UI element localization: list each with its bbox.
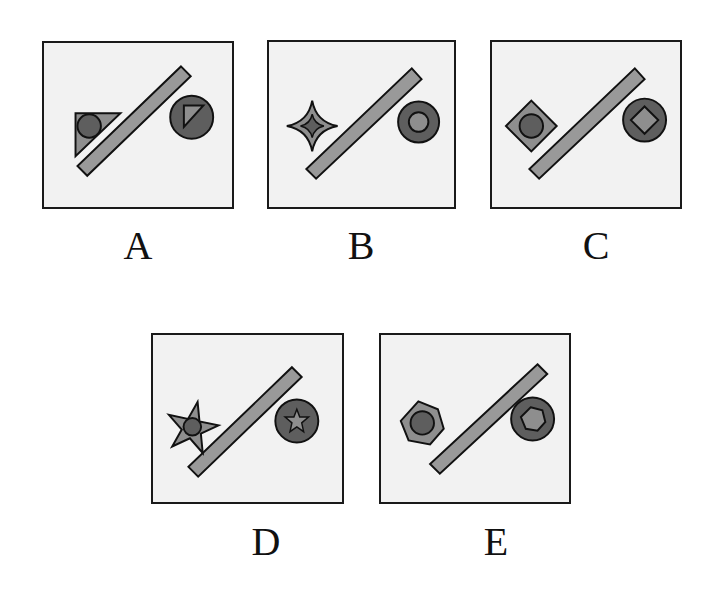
option-b-figure (269, 42, 454, 207)
option-panel-d[interactable] (151, 333, 344, 504)
option-panel-e[interactable] (379, 333, 571, 504)
option-c-figure (492, 42, 680, 207)
left-inner-circle-icon (411, 411, 434, 434)
left-inner-circle-icon (520, 114, 543, 137)
option-e-figure (381, 335, 569, 502)
option-a-figure (44, 43, 232, 207)
option-panel-a[interactable] (42, 41, 234, 209)
option-label-a: A (108, 226, 168, 266)
option-panel-b[interactable] (267, 40, 456, 209)
option-label-b: B (331, 226, 391, 266)
option-d-figure (153, 335, 342, 502)
option-panel-c[interactable] (490, 40, 682, 209)
option-label-c: C (566, 226, 626, 266)
option-label-d: D (236, 522, 296, 562)
right-inner-circle-icon (409, 112, 429, 132)
option-label-e: E (466, 522, 526, 562)
left-inner-circle-icon (77, 114, 100, 137)
left-inner-circle-icon (184, 418, 202, 436)
